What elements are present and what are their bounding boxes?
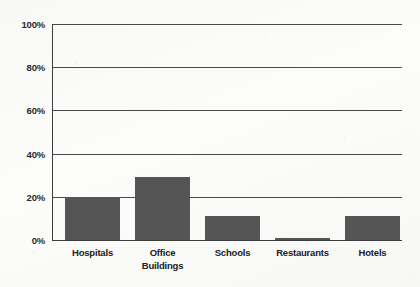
x-tick-label-hotels: Hotels — [359, 247, 387, 258]
x-tick-label-restaurants: Restaurants — [276, 247, 329, 258]
bar-office-buildings[interactable] — [135, 177, 190, 240]
y-tick-label-0: 0% — [32, 235, 46, 246]
chart-page: 100% 80% 60% 40% 20% 0% Hospitals Office… — [0, 0, 420, 287]
bar-schools[interactable] — [205, 216, 260, 240]
y-tick-label-100: 100% — [22, 19, 46, 30]
bars — [65, 177, 400, 240]
bar-hospitals[interactable] — [65, 197, 120, 240]
y-tick-label-80: 80% — [27, 62, 46, 73]
bar-chart: 100% 80% 60% 40% 20% 0% Hospitals Office… — [0, 0, 420, 287]
y-tick-label-60: 60% — [27, 105, 46, 116]
x-tick-label-office-buildings-line1: Office — [150, 247, 176, 258]
y-axis-tick-labels: 100% 80% 60% 40% 20% 0% — [22, 19, 46, 246]
x-tick-label-office-buildings-line2: Buildings — [142, 260, 183, 271]
bar-restaurants[interactable] — [275, 238, 330, 240]
gridlines — [52, 25, 402, 198]
x-tick-label-schools: Schools — [215, 247, 251, 258]
y-tick-label-20: 20% — [27, 192, 46, 203]
x-tick-label-hospitals: Hospitals — [72, 247, 113, 258]
bar-hotels[interactable] — [345, 216, 400, 240]
x-axis-tick-labels: Hospitals Office Buildings Schools Resta… — [72, 247, 386, 271]
y-tick-label-40: 40% — [27, 149, 46, 160]
